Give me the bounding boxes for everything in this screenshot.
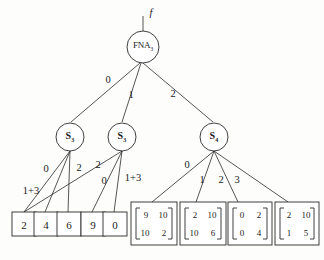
- matrix-3-cell-r1c1: 4: [257, 229, 262, 238]
- edge-root-to-s-right: [143, 63, 213, 122]
- edge-label-sright-3: 3: [234, 175, 239, 186]
- matrix-4-cell-r1c1: 5: [304, 229, 309, 238]
- edge-smid-to-leaf-0: [114, 151, 122, 212]
- s-node-middle: S3: [118, 131, 127, 143]
- matrix-4-cell-r0c1: 10: [302, 211, 311, 220]
- matrix-1-cell-r0c1: 10: [159, 211, 168, 220]
- edge-label-sright-1: 1: [199, 175, 204, 186]
- edge-label-sleft-1plus3: 1+3: [23, 186, 39, 197]
- matrix-2-cell-r0c1: 10: [208, 211, 217, 220]
- tree-diagram: f FNA3 S3 S3 S4 0 1 2 0 1+3 2 2 0 1+3 0 …: [0, 0, 324, 260]
- matrix-1-cell-r0c0: 9: [144, 211, 149, 220]
- s-node-middle-subscript: 3: [123, 137, 126, 143]
- matrix-1-cell-r1c0: 10: [141, 229, 150, 238]
- edge-label-sright-2: 2: [218, 175, 223, 186]
- s-node-left: S3: [66, 131, 75, 143]
- edge-label-root-0: 0: [105, 75, 110, 86]
- matrix-2-cell-r0c0: 2: [193, 211, 198, 220]
- fna-root-subscript: 3: [150, 46, 153, 52]
- matrix-2-cell-r1c0: 10: [190, 229, 199, 238]
- matrix-2-cell-r1c1: 6: [211, 229, 216, 238]
- edge-label-sleft-0: 0: [43, 164, 48, 175]
- s-node-right-subscript: 4: [215, 137, 218, 143]
- root-function-label: f: [150, 8, 153, 19]
- edge-sleft-to-leaf-2: [24, 151, 70, 212]
- edge-label-smid-2: 2: [95, 160, 100, 171]
- edge-sright-to-matrix-4: [214, 151, 288, 202]
- matrix-3-cell-r0c1: 2: [257, 211, 262, 220]
- scalar-leaf-value-3: 6: [66, 220, 72, 231]
- fna-root-base: FNA: [133, 40, 150, 50]
- matrix-3-cell-r1c0: 0: [240, 229, 245, 238]
- edge-label-sright-0: 0: [184, 160, 189, 171]
- edge-label-root-2: 2: [170, 89, 175, 100]
- fna-root-node: FNA3: [133, 41, 153, 52]
- scalar-leaf-value-5: 0: [112, 220, 118, 231]
- edge-sleft-to-leaf-4: [45, 151, 70, 212]
- matrix-4-cell-r1c0: 1: [287, 229, 292, 238]
- scalar-leaf-value-1: 2: [21, 220, 27, 231]
- s-node-left-subscript: 3: [71, 137, 74, 143]
- edge-label-root-1: 1: [128, 90, 133, 101]
- edge-label-smid-0: 0: [101, 176, 106, 187]
- matrix-4-cell-r0c0: 2: [287, 211, 292, 220]
- s-node-right: S4: [210, 131, 219, 143]
- scalar-leaf-value-4: 9: [90, 220, 96, 231]
- edge-label-sleft-2: 2: [76, 163, 81, 174]
- edge-sleft-to-leaf-6: [68, 151, 70, 212]
- scalar-leaf-value-2: 4: [43, 220, 49, 231]
- edge-label-smid-1plus3: 1+3: [125, 173, 141, 184]
- matrix-3-cell-r0c0: 0: [240, 211, 245, 220]
- matrix-1-cell-r1c1: 2: [162, 229, 167, 238]
